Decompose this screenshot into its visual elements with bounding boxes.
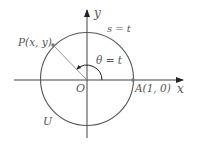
- point-p-label: P(x, y): [17, 36, 52, 48]
- unit-circle-diagram: y s = t P(x, y) θ = t O A(1, 0) x U: [0, 0, 197, 149]
- y-axis-label: y: [93, 6, 101, 20]
- circle-label: U: [43, 115, 53, 128]
- radius-line: [53, 45, 87, 80]
- angle-arc: [77, 65, 102, 80]
- angle-label: θ = t: [96, 54, 123, 66]
- x-axis-label: x: [177, 82, 184, 96]
- arc-length-label: s = t: [107, 23, 132, 34]
- origin-label: O: [76, 82, 85, 95]
- point-a-label: A(1, 0): [134, 82, 171, 94]
